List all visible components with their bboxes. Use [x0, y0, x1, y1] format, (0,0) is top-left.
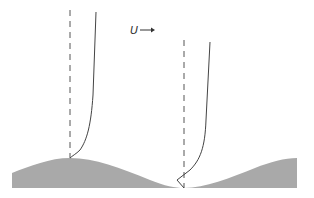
crest-velocity-profile: [70, 12, 96, 158]
wavy-boundary-flow-diagram: U: [0, 0, 314, 198]
trough-velocity-profile: [177, 42, 210, 188]
flow-direction-arrow-icon: [140, 28, 155, 33]
flow-velocity-label: U: [130, 24, 138, 37]
wavy-ground: [12, 158, 297, 188]
